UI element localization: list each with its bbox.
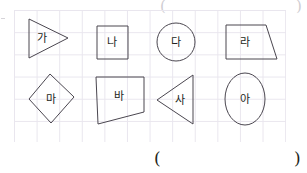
shape-label-ba: 바 xyxy=(114,91,124,102)
shape-label-na: 나 xyxy=(107,37,117,48)
shape-label-ma: 마 xyxy=(46,94,56,105)
shape-label-ga: 가 xyxy=(37,33,47,44)
worksheet-canvas: ( ) 가 나 다 라 마 바 사 아 ( ) xyxy=(0,0,307,173)
shape-label-da: 다 xyxy=(171,37,181,48)
shape-label-sa: 사 xyxy=(175,95,185,106)
shape-label-ra: 라 xyxy=(240,37,250,48)
shape-ra-trapezoid xyxy=(226,25,277,59)
answer-open-paren: ( xyxy=(154,150,161,167)
answer-row: ( ) xyxy=(0,146,307,173)
shape-label-a: 아 xyxy=(240,94,250,105)
shape-ga-triangle-right xyxy=(29,19,68,58)
answer-close-paren: ) xyxy=(294,150,301,167)
